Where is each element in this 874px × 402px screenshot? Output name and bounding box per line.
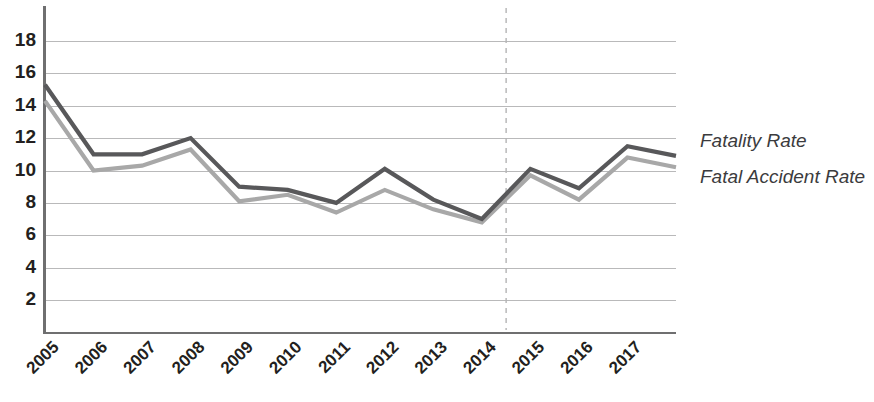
legend-entry-label: Fatality Rate — [700, 130, 807, 151]
y-axis-tick-label: 2 — [25, 288, 36, 309]
legend-entry-label: Fatal Accident Rate — [700, 166, 865, 187]
y-axis-tick-label: 10 — [15, 159, 36, 180]
x-axis-tick-label: 2006 — [71, 337, 111, 377]
x-axis-tick-label: 2011 — [315, 337, 355, 377]
y-axis-tick-label: 16 — [15, 61, 36, 82]
chart-legend: Fatality RateFatal Accident Rate — [700, 130, 865, 187]
y-axis-tick-label: 14 — [15, 94, 37, 115]
gridlines — [45, 42, 676, 301]
x-axis-tick-label: 2007 — [120, 337, 160, 377]
x-axis-tick-label: 2012 — [362, 337, 402, 377]
y-axis-tick-label: 12 — [15, 126, 36, 147]
x-axis-tick-label: 2016 — [557, 337, 597, 377]
x-axis-tick-label: 2010 — [265, 337, 305, 377]
y-axis-tick-label: 6 — [25, 223, 36, 244]
chart-canvas: 24681012141618 2005200620072008200920102… — [0, 0, 874, 402]
x-axis-tick-label: 2008 — [168, 337, 208, 377]
series-line-fatal-accident-rate — [45, 101, 676, 222]
y-axis-tick-labels: 24681012141618 — [15, 29, 37, 309]
line-chart: 24681012141618 2005200620072008200920102… — [0, 0, 874, 402]
x-axis-tick-label: 2015 — [508, 337, 548, 377]
y-axis-tick-label: 8 — [25, 191, 36, 212]
x-axis-tick-label: 2005 — [23, 337, 63, 377]
x-axis-tick-labels: 2005200620072008200920102011201220132014… — [23, 337, 646, 378]
x-axis-tick-label: 2009 — [217, 337, 257, 377]
x-axis-tick-label: 2013 — [411, 337, 451, 377]
y-axis-tick-label: 18 — [15, 29, 36, 50]
y-axis-tick-label: 4 — [25, 256, 36, 277]
x-axis-tick-label: 2017 — [605, 337, 645, 377]
data-series-group — [45, 85, 676, 223]
x-axis-tick-label: 2014 — [459, 337, 500, 378]
